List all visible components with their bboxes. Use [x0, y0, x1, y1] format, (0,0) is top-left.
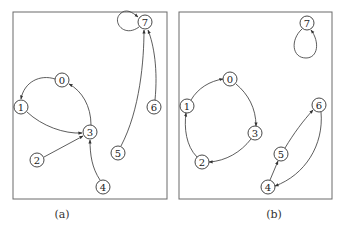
edge-7-to-7: [117, 11, 139, 31]
edge-7-to-7: [294, 29, 316, 58]
node-label: 3: [87, 127, 93, 138]
node-7: 7: [138, 15, 152, 29]
node-1: 1: [180, 99, 194, 113]
node-5: 5: [274, 147, 288, 161]
edge-3-to-2: [209, 139, 251, 162]
node-label: 4: [265, 182, 271, 193]
node-5: 5: [111, 146, 125, 160]
panels: 01234567(a)01234567(b): [13, 11, 332, 221]
node-2: 2: [30, 153, 44, 167]
edge-2-to-1: [185, 113, 197, 157]
edge-0-to-3: [236, 84, 256, 126]
edge-6-to-7: [148, 30, 156, 100]
node-0: 0: [55, 73, 69, 87]
node-3: 3: [83, 125, 97, 139]
node-3: 3: [248, 126, 262, 140]
node-label: 3: [252, 128, 258, 139]
node-6: 6: [147, 100, 161, 114]
node-label: 1: [184, 101, 190, 112]
node-label: 2: [199, 157, 205, 168]
node-4: 4: [96, 180, 110, 194]
node-label: 4: [100, 182, 106, 193]
edge-5-to-6: [285, 110, 313, 148]
node-label: 7: [304, 18, 310, 29]
node-label: 5: [115, 148, 121, 159]
panel-caption: (b): [266, 208, 282, 221]
edge-5-to-7: [121, 30, 144, 146]
panel-frame: [179, 12, 332, 199]
edge-2-to-3: [44, 136, 83, 157]
node-4: 4: [261, 180, 275, 194]
node-label: 1: [18, 102, 24, 113]
panel-caption: (a): [54, 208, 69, 221]
panel-a: 01234567(a): [13, 11, 167, 221]
node-7: 7: [300, 16, 314, 30]
node-label: 0: [59, 75, 65, 86]
graph-figure: 01234567(a)01234567(b): [0, 0, 344, 230]
node-1: 1: [14, 100, 28, 114]
node-label: 0: [227, 74, 233, 85]
edge-4-to-3: [90, 140, 100, 180]
node-label: 2: [34, 155, 40, 166]
node-6: 6: [312, 98, 326, 112]
edge-3-to-0: [69, 84, 91, 125]
edge-4-to-5: [270, 161, 278, 180]
node-2: 2: [195, 155, 209, 169]
node-label: 6: [316, 100, 322, 111]
panel-b: 01234567(b): [179, 12, 332, 221]
edge-1-to-0: [191, 79, 223, 100]
edge-0-to-1: [21, 78, 55, 99]
edge-1-to-3: [27, 112, 82, 133]
node-label: 6: [151, 102, 157, 113]
node-0: 0: [223, 72, 237, 86]
node-label: 5: [278, 149, 284, 160]
node-label: 7: [142, 17, 148, 28]
